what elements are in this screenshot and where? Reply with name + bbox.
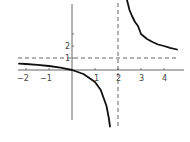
x-tick-label: 3 [139, 74, 144, 83]
x-tick-label: 4 [162, 74, 167, 83]
function-graph: −2 −1 1 2 3 4 1 2 [0, 0, 190, 142]
y-tick-label: 1 [65, 54, 70, 63]
y-tick-label: 2 [65, 42, 70, 51]
x-tick-label: −2 [17, 74, 29, 83]
x-tick-label: −1 [40, 74, 52, 83]
x-tick-label: 2 [116, 74, 121, 83]
curve-right-branch [127, 0, 177, 50]
